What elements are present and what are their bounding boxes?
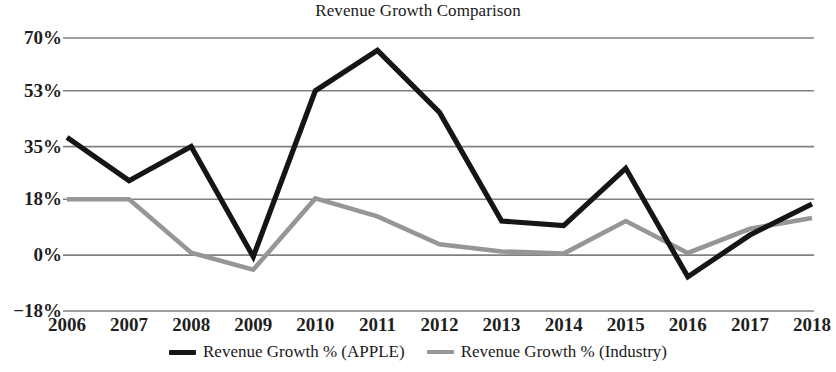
x-tick-label: 2007 <box>110 314 148 336</box>
x-tick-label: 2012 <box>421 314 459 336</box>
legend-item[interactable]: Revenue Growth % (Industry) <box>427 342 667 362</box>
x-tick-label: 2017 <box>731 314 769 336</box>
legend-line-icon <box>427 350 454 354</box>
legend-line-icon <box>169 350 196 355</box>
x-tick-label: 2014 <box>545 314 583 336</box>
x-tick-label: 2016 <box>669 314 707 336</box>
x-tick-label: 2015 <box>607 314 645 336</box>
x-axis: 2006200720082009201020112012201320142015… <box>0 314 836 342</box>
x-tick-label: 2011 <box>359 314 396 336</box>
x-tick-label: 2006 <box>48 314 86 336</box>
series-lines <box>67 50 812 276</box>
x-tick-label: 2010 <box>296 314 334 336</box>
x-tick-label: 2009 <box>234 314 272 336</box>
series-line <box>67 198 812 269</box>
chart-legend: Revenue Growth % (APPLE)Revenue Growth %… <box>0 342 836 362</box>
x-tick-label: 2018 <box>793 314 831 336</box>
x-tick-label: 2013 <box>483 314 521 336</box>
legend-label: Revenue Growth % (APPLE) <box>203 342 405 362</box>
legend-label: Revenue Growth % (Industry) <box>461 342 667 362</box>
x-tick-label: 2008 <box>172 314 210 336</box>
legend-item[interactable]: Revenue Growth % (APPLE) <box>169 342 405 362</box>
revenue-growth-chart: Revenue Growth Comparison 70%53%35%18%0%… <box>0 0 836 372</box>
